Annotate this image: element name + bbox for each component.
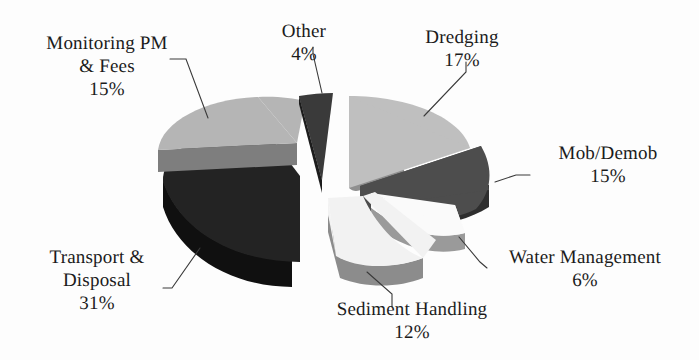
- pie-label-dredging: Dredging 17%: [386, 26, 538, 72]
- pie-label-sediment-handling-percent: 12%: [300, 321, 524, 344]
- pie-label-monitoring-pm-fees-line1: Monitoring PM: [14, 32, 200, 55]
- pie-label-transport-disposal-line1: Transport &: [8, 246, 186, 269]
- pie-label-dredging-line1: Dredging: [386, 26, 538, 49]
- pie-label-water-management-line1: Water Management: [476, 246, 694, 269]
- pie-label-mob-demob-percent: 15%: [524, 165, 692, 188]
- slice-other: [299, 93, 333, 193]
- pie-label-mob-demob: Mob/Demob 15%: [524, 142, 692, 188]
- pie-label-monitoring-pm-fees-percent: 15%: [14, 78, 200, 101]
- pie-label-transport-disposal: Transport & Disposal 31%: [8, 246, 186, 316]
- pie-label-water-management-percent: 6%: [476, 269, 694, 292]
- pie-label-monitoring-pm-fees: Monitoring PM & Fees 15%: [14, 32, 200, 102]
- pie-label-dredging-percent: 17%: [386, 49, 538, 72]
- slice-monitoring-pm-fees: [158, 97, 305, 172]
- pie-label-other: Other 4%: [243, 20, 365, 66]
- pie-label-water-management: Water Management 6%: [476, 246, 694, 292]
- pie-label-mob-demob-line1: Mob/Demob: [524, 142, 692, 165]
- pie-chart-figure: Monitoring PM & Fees 15% Other 4% Dredgi…: [0, 0, 699, 360]
- pie-label-sediment-handling-line1: Sediment Handling: [300, 298, 524, 321]
- pie-label-transport-disposal-line2: Disposal: [8, 269, 186, 292]
- pie-label-sediment-handling: Sediment Handling 12%: [300, 298, 524, 344]
- pie-label-other-line1: Other: [243, 20, 365, 43]
- pie-label-transport-disposal-percent: 31%: [8, 292, 186, 315]
- pie-label-other-percent: 4%: [243, 43, 365, 66]
- pie-label-monitoring-pm-fees-line2: & Fees: [14, 55, 200, 78]
